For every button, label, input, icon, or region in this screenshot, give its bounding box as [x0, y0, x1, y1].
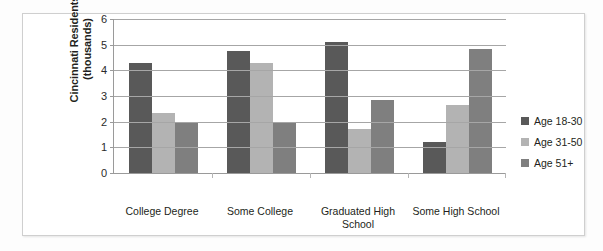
- y-axis-tick-label: 6: [101, 14, 107, 25]
- bar[interactable]: [129, 63, 152, 173]
- y-axis-tick-label: 1: [101, 142, 107, 153]
- x-axis-category-label: Graduated High School: [309, 205, 407, 231]
- bar[interactable]: [250, 63, 273, 173]
- bar[interactable]: [371, 100, 394, 173]
- legend-swatch-icon: [521, 159, 529, 167]
- y-axis-tick-labels: 0123456: [85, 19, 107, 173]
- gridline: [114, 45, 506, 46]
- chart-legend: Age 18-30Age 31-50Age 51+: [521, 110, 603, 173]
- plot-area: [113, 19, 506, 174]
- bar[interactable]: [348, 129, 371, 173]
- legend-item[interactable]: Age 51+: [521, 152, 603, 173]
- y-axis-tick-label: 2: [101, 116, 107, 127]
- gridline: [114, 70, 506, 71]
- y-axis-tickmark: [110, 147, 114, 148]
- legend-swatch-icon: [521, 117, 529, 125]
- page-background: Cincinnati Residents (thousands) 0123456…: [0, 0, 603, 251]
- x-axis-separator: [310, 173, 311, 178]
- x-axis-separator: [212, 173, 213, 178]
- gridline: [114, 96, 506, 97]
- y-axis-tick-label: 0: [101, 168, 107, 179]
- x-axis-category-labels: College DegreeSome CollegeGraduated High…: [113, 205, 505, 231]
- plot-area-wrapper: 0123456: [85, 19, 505, 199]
- bar[interactable]: [446, 105, 469, 173]
- y-axis-tick-label: 3: [101, 91, 107, 102]
- x-axis-category-label: Some High School: [407, 205, 505, 231]
- gridline: [114, 122, 506, 123]
- legend-label: Age 51+: [534, 157, 573, 169]
- legend-item[interactable]: Age 31-50: [521, 131, 603, 152]
- bar[interactable]: [325, 42, 348, 173]
- y-axis-title-line1: Cincinnati Residents: [68, 0, 81, 102]
- legend-item[interactable]: Age 18-30: [521, 110, 603, 131]
- legend-swatch-icon: [521, 138, 529, 146]
- bar[interactable]: [469, 49, 492, 173]
- x-axis-category-label: College Degree: [113, 205, 211, 231]
- x-axis-separator: [505, 173, 506, 178]
- y-axis-tickmark: [110, 45, 114, 46]
- y-axis-tickmark: [110, 70, 114, 71]
- x-axis-category-label: Some College: [211, 205, 309, 231]
- gridline: [114, 147, 506, 148]
- y-axis-tick-label: 5: [101, 39, 107, 50]
- y-axis-tickmark: [110, 173, 114, 174]
- x-axis-separator: [408, 173, 409, 178]
- legend-label: Age 18-30: [534, 115, 582, 127]
- y-axis-tickmark: [110, 19, 114, 20]
- y-axis-tickmark: [110, 122, 114, 123]
- chart-frame: Cincinnati Residents (thousands) 0123456…: [22, 13, 585, 236]
- y-axis-tickmark: [110, 96, 114, 97]
- y-axis-tick-label: 4: [101, 65, 107, 76]
- gridline: [114, 19, 506, 20]
- legend-label: Age 31-50: [534, 136, 582, 148]
